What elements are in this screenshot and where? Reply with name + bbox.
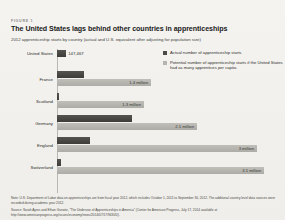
category-label: Scotland: [11, 99, 53, 105]
figure-kicker: FIGURE 1: [11, 18, 277, 24]
chart-plot-area: United States 147,467 France 1.4 million: [11, 49, 277, 193]
bar-value: 2.1 million: [175, 124, 194, 129]
bar-value: 147,467: [68, 51, 84, 56]
category-label: France: [11, 77, 53, 83]
category-label: United States: [11, 51, 53, 57]
category-label: Switzerland: [11, 165, 53, 171]
bar-actual: [57, 71, 84, 78]
bar-actual: [57, 159, 61, 166]
row-bars: 1.3 million: [57, 93, 277, 117]
bar-potential: 3 million: [57, 145, 257, 152]
figure-subtitle: 2012 apprenticeship starts by country (a…: [11, 36, 277, 43]
row-bars: 3 million: [57, 137, 277, 161]
bar-value: 3.1 million: [242, 168, 261, 173]
bar-potential: 1.3 million: [57, 101, 144, 108]
source-block: Source: Sarah Ayres and Ethan Gurwitz, "…: [11, 208, 277, 217]
chart-row-switzerland: Switzerland 3.1 million: [11, 159, 277, 183]
row-bars: 147,467: [57, 49, 277, 73]
figure-page: FIGURE 1 The United States lags behind o…: [0, 0, 285, 220]
chart-row-france: France 1.4 million: [11, 71, 277, 95]
bar-value: 1.3 million: [122, 102, 141, 107]
bar-actual: [57, 93, 59, 100]
chart: Actual number of apprenticeship starts P…: [11, 49, 277, 193]
bar-actual: 147,467: [57, 50, 66, 57]
chart-row-united-states: United States 147,467: [11, 49, 277, 73]
source-url[interactable]: http://www.americanprogress.org/issues/e…: [11, 213, 277, 218]
page-title: The United States lags behind other coun…: [11, 25, 277, 34]
note-text: Note: U.S. Department of Labor data on a…: [11, 196, 277, 205]
chart-row-england: England 3 million: [11, 137, 277, 161]
chart-row-germany: Germany 2.1 million: [11, 115, 277, 139]
bar-actual: [57, 115, 132, 122]
figure-notes: Note: U.S. Department of Labor data on a…: [11, 196, 277, 220]
row-bars: 3.1 million: [57, 159, 277, 183]
bar-value: 3 million: [239, 146, 254, 151]
row-bars: 1.4 million: [57, 71, 277, 95]
bar-potential: 3.1 million: [57, 167, 264, 174]
row-bars: 2.1 million: [57, 115, 277, 139]
category-label: Germany: [11, 121, 53, 127]
bar-actual: [57, 137, 90, 144]
figure-inner: FIGURE 1 The United States lags behind o…: [11, 18, 277, 216]
bar-value: 1.4 million: [129, 80, 148, 85]
bar-potential: 1.4 million: [57, 79, 151, 86]
note-block: Note: U.S. Department of Labor data on a…: [11, 196, 277, 205]
chart-row-scotland: Scotland 1.3 million: [11, 93, 277, 117]
category-label: England: [11, 143, 53, 149]
bar-potential: 2.1 million: [57, 123, 197, 130]
